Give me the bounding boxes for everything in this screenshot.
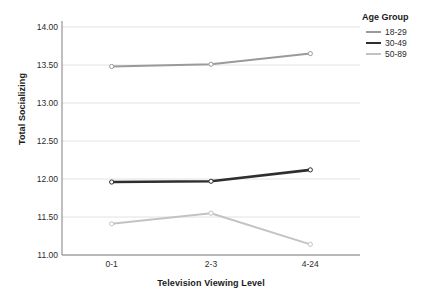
legend-item-50-89[interactable]: 50-89 (366, 48, 428, 59)
legend: Age Group 18-2930-4950-89 (362, 12, 428, 59)
series-18-29 (110, 52, 313, 69)
data-point (110, 64, 114, 68)
data-point (308, 52, 312, 56)
x-tick-label: 0-1 (82, 259, 142, 269)
legend-label: 18-29 (385, 27, 407, 37)
data-point (209, 62, 213, 66)
y-tick-label: 13.00 (22, 98, 58, 108)
data-point (209, 211, 213, 215)
series-line (112, 213, 311, 244)
data-point (110, 222, 114, 226)
x-tick-label: 2-3 (181, 259, 241, 269)
legend-item-18-29[interactable]: 18-29 (366, 26, 428, 37)
y-tick-label: 11.50 (22, 212, 58, 222)
series-30-49 (110, 168, 313, 184)
legend-entries: 18-2930-4950-89 (362, 26, 428, 59)
x-tick-label: 4-24 (280, 259, 340, 269)
data-point (308, 242, 312, 246)
y-tick-label: 12.00 (22, 174, 58, 184)
legend-title: Age Group (362, 12, 428, 22)
legend-swatch-icon (366, 53, 381, 55)
data-point (110, 180, 114, 184)
line-chart: 11.0011.5012.0012.5013.0013.5014.00 0-12… (0, 0, 429, 299)
y-tick-label: 13.50 (22, 60, 58, 70)
data-point (209, 179, 213, 183)
legend-swatch-icon (366, 31, 381, 33)
legend-item-30-49[interactable]: 30-49 (366, 37, 428, 48)
data-point (308, 168, 312, 172)
y-tick-label: 14.00 (22, 22, 58, 32)
series-50-89 (110, 211, 313, 246)
y-tick-label: 11.00 (22, 250, 58, 260)
legend-label: 30-49 (385, 38, 407, 48)
legend-label: 50-89 (385, 49, 407, 59)
legend-swatch-icon (366, 42, 381, 44)
x-axis-title: Television Viewing Level (62, 278, 360, 288)
y-axis-title: Total Socializing (17, 49, 27, 169)
y-tick-label: 12.50 (22, 136, 58, 146)
